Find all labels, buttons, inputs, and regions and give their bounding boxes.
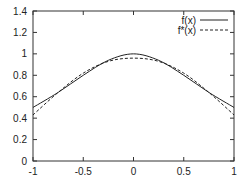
y-tick-label: 0.8 — [13, 70, 27, 81]
series-line-f — [33, 54, 234, 108]
y-tick-label: 1.2 — [13, 27, 27, 38]
line-chart: 00.20.40.60.811.21.4-1-0.500.51f(x)f*(x) — [0, 0, 246, 184]
x-tick-label: 0.5 — [177, 166, 191, 177]
y-tick-label: 1 — [21, 48, 27, 59]
y-tick-label: 0.6 — [13, 91, 27, 102]
y-tick-label: 0.4 — [13, 113, 27, 124]
plot-frame — [33, 11, 234, 161]
y-tick-label: 0.2 — [13, 134, 27, 145]
x-tick-label: 0 — [131, 166, 137, 177]
y-tick-label: 1.4 — [13, 6, 27, 17]
x-tick-label: 1 — [231, 166, 237, 177]
x-tick-label: -1 — [29, 166, 38, 177]
y-tick-label: 0 — [21, 156, 27, 167]
legend-label: f*(x) — [178, 25, 196, 36]
x-tick-label: -0.5 — [75, 166, 93, 177]
plot-area: 00.20.40.60.811.21.4-1-0.500.51f(x)f*(x) — [13, 6, 237, 178]
series-line-f-star — [33, 58, 234, 115]
